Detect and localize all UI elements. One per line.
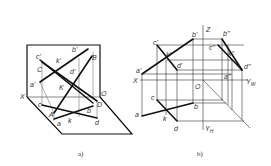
label-a-prime: a' (30, 81, 36, 88)
label-Y-W: YW (246, 78, 257, 87)
label-c-dprime: c" (209, 44, 216, 51)
label-B: B (92, 54, 97, 61)
label-b-prime: b' (72, 46, 78, 53)
label-d: d (95, 119, 100, 126)
label-c: c (151, 94, 155, 101)
caption-b: b) (197, 150, 204, 158)
label-d-dprime: d" (244, 63, 251, 70)
label-A: A (48, 111, 54, 118)
label-b: b (194, 103, 198, 110)
label-c: c (38, 101, 42, 108)
horizontal-plane (27, 97, 132, 134)
label-a: a (135, 111, 139, 118)
label-X: X (19, 93, 25, 100)
label-d-prime: d' (177, 62, 183, 69)
label-O: O (101, 90, 107, 97)
label-c-prime: c' (36, 53, 42, 60)
label-k-prime: k' (56, 57, 62, 64)
figure-a: c' b' B C k' d' a' K X O c A D b a k d a… (19, 45, 132, 158)
label-c-prime: c' (153, 39, 159, 46)
label-b-dprime: b" (223, 30, 230, 37)
line-cd-dprime (218, 45, 242, 70)
label-k-prime: k' (166, 51, 172, 58)
label-b: b (87, 107, 91, 114)
label-d: d (174, 125, 179, 132)
label-d-prime: d' (70, 68, 76, 75)
label-D: D (97, 101, 102, 108)
label-O: O (195, 83, 201, 90)
label-Z: Z (205, 26, 211, 33)
label-k: k (163, 115, 167, 122)
caption-a: a) (78, 150, 84, 158)
line-ab (142, 103, 193, 116)
label-k-dprime: k" (228, 50, 235, 57)
label-a-prime: a' (136, 67, 142, 74)
label-a: a (57, 120, 61, 127)
label-X: X (132, 77, 138, 84)
label-K: K (59, 84, 64, 91)
label-a-dprime: a" (224, 73, 231, 80)
figure-b: Z b" c' b' c" k' k" a' d' d" a" X O YW c… (132, 25, 257, 158)
projection-diagram: c' b' B C k' d' a' K X O c A D b a k d a… (0, 0, 271, 166)
line-cd (157, 100, 177, 121)
label-b-prime: b' (192, 31, 198, 38)
label-k: k (68, 117, 72, 124)
label-Y-H: YH (205, 125, 214, 134)
